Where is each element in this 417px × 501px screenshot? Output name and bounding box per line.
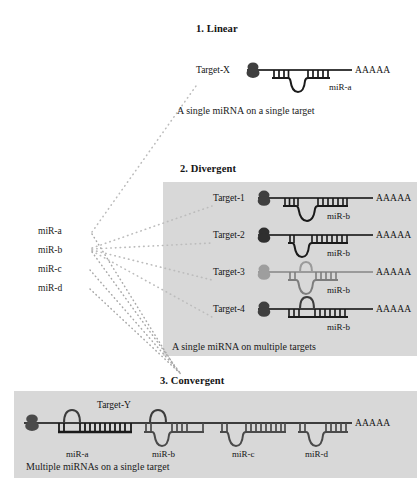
mirna-target-figure: miR-a miR-b miR-c miR-d 1. Linear Target… (0, 0, 417, 501)
convergent-transcript-graphic (0, 0, 417, 501)
caption-convergent: Multiple miRNAs on a single target (26, 461, 169, 472)
